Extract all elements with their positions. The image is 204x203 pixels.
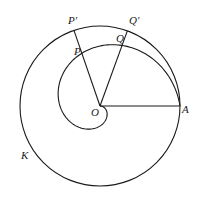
label-o: O — [91, 106, 99, 118]
spiral-curve — [58, 45, 180, 129]
spiral-diagram: P' Q' P Q O A K — [0, 0, 204, 203]
label-q: Q — [116, 32, 124, 44]
label-q-prime: Q' — [129, 14, 140, 26]
label-p: P — [73, 45, 81, 57]
label-a: A — [181, 103, 189, 115]
label-p-prime: P' — [67, 14, 78, 26]
label-k: K — [20, 149, 29, 161]
segment-op-prime — [74, 30, 100, 106]
